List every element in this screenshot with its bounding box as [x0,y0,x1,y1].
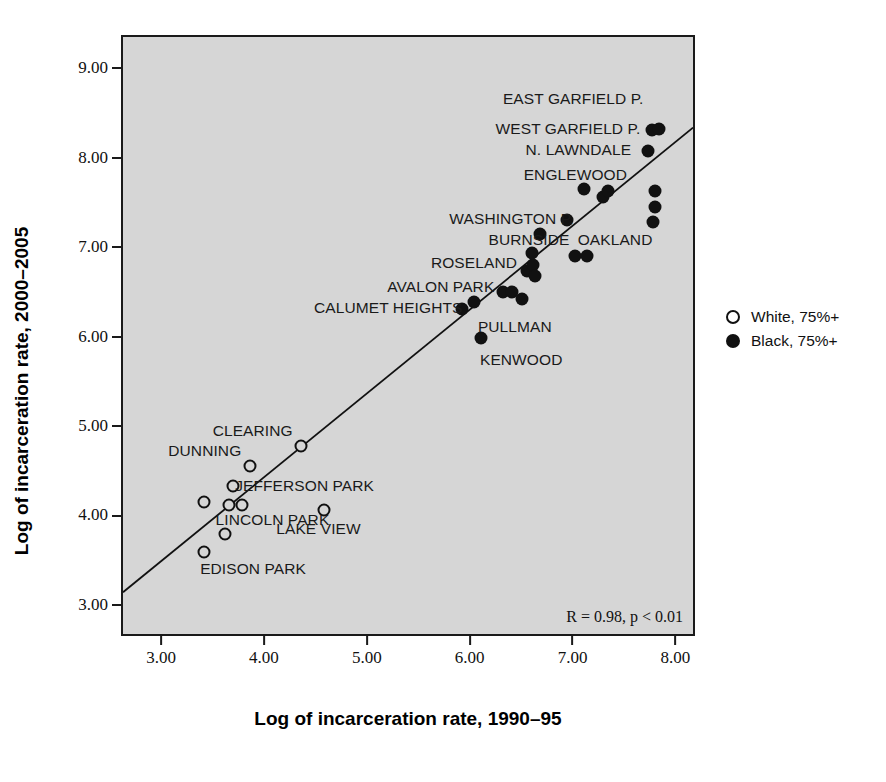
data-point [648,184,661,197]
x-tick-mark [469,634,471,645]
plot-inner: EAST GARFIELD P.WEST GARFIELD P.N. LAWND… [123,37,693,634]
y-tick-mark [112,157,123,159]
point-label: LAKE VIEW [276,520,360,538]
legend-item[interactable]: Black, 75%+ [726,329,839,353]
point-label: OAKLAND [578,231,653,249]
y-axis-title: Log of incarceration rate, 2000–2005 [11,227,33,555]
chart-figure: Log of incarceration rate, 2000–2005 EAS… [0,0,886,782]
point-label: KENWOOD [480,351,563,369]
x-tick-5.00: 5.00 [352,634,382,668]
plot-area: EAST GARFIELD P.WEST GARFIELD P.N. LAWND… [121,35,695,636]
data-point [568,250,581,263]
data-point [467,295,480,308]
y-tick-mark [112,246,123,248]
x-tick-8.00: 8.00 [661,634,691,668]
point-label: N. LAWNDALE [526,141,632,159]
y-tick-label: 6.00 [78,327,108,346]
x-tick-mark [160,634,162,645]
x-tick-label: 7.00 [558,648,588,667]
x-tick-4.00: 4.00 [249,634,279,668]
x-tick-mark [572,634,574,645]
point-label: JEFFERSON PARK [235,477,374,495]
y-tick-9.00: 9.00 [78,58,123,78]
correlation-annotation: R = 0.98, p < 0.01 [566,608,683,626]
filled-circle-icon [726,334,740,348]
point-label: BURNSIDE [489,231,570,249]
data-point [243,460,256,473]
y-tick-label: 4.00 [78,505,108,524]
x-tick-mark [674,634,676,645]
y-tick-label: 5.00 [78,416,108,435]
legend: White, 75%+Black, 75%+ [726,305,839,353]
x-axis-title: Log of incarceration rate, 1990–95 [121,708,695,730]
data-point [222,498,235,511]
y-tick-mark [112,425,123,427]
y-tick-5.00: 5.00 [78,416,123,436]
y-tick-7.00: 7.00 [78,237,123,257]
y-tick-label: 7.00 [78,237,108,256]
point-label: ENGLEWOOD [524,166,627,184]
data-point [218,528,231,541]
data-point [641,144,654,157]
legend-label: White, 75%+ [751,308,839,326]
data-point [580,250,593,263]
data-point [198,546,211,559]
x-tick-label: 6.00 [455,648,485,667]
point-label: EAST GARFIELD P. [503,90,644,108]
x-tick-label: 4.00 [249,648,279,667]
y-tick-8.00: 8.00 [78,148,123,168]
point-label: PULLMAN [478,318,552,336]
data-point [652,123,665,136]
y-tick-3.00: 3.00 [78,595,123,615]
point-label: WEST GARFIELD P. [496,120,641,138]
data-point [516,293,529,306]
y-tick-mark [112,336,123,338]
x-tick-7.00: 7.00 [558,634,588,668]
open-circle-icon [726,310,740,324]
y-tick-mark [112,515,123,517]
x-tick-3.00: 3.00 [146,634,176,668]
point-label: DUNNING [168,442,241,460]
data-point [577,183,590,196]
point-label: ROSELAND [431,254,517,272]
y-tick-4.00: 4.00 [78,505,123,525]
y-tick-mark [112,604,123,606]
data-point [648,200,661,213]
legend-item[interactable]: White, 75%+ [726,305,839,329]
x-tick-6.00: 6.00 [455,634,485,668]
data-point [646,216,659,229]
y-tick-label: 9.00 [78,58,108,77]
data-point [294,439,307,452]
point-label: CALUMET HEIGHTS [314,299,463,317]
point-label: AVALON PARK [387,278,494,296]
y-tick-6.00: 6.00 [78,327,123,347]
data-point [198,496,211,509]
point-label: CLEARING [213,422,293,440]
data-point [236,498,249,511]
x-tick-label: 5.00 [352,648,382,667]
y-tick-label: 3.00 [78,595,108,614]
point-label: WASHINGTON P. [449,210,573,228]
y-tick-label: 8.00 [78,148,108,167]
point-label: EDISON PARK [200,560,306,578]
data-point [529,269,542,282]
legend-label: Black, 75%+ [751,332,838,350]
x-tick-mark [263,634,265,645]
y-tick-mark [112,67,123,69]
x-tick-mark [366,634,368,645]
x-tick-label: 8.00 [661,648,691,667]
x-tick-label: 3.00 [146,648,176,667]
data-point [601,184,614,197]
